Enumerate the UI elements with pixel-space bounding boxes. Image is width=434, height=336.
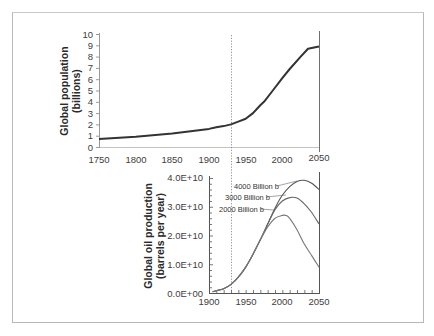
y-tick-label: 5 [88, 85, 93, 96]
y-tick-label: 9 [88, 40, 93, 51]
y-tick-marks [209, 179, 213, 294]
x-tick-label: 2050 [308, 296, 329, 307]
x-tick-marks [210, 290, 320, 293]
x-tick-label: 1900 [198, 296, 219, 307]
x-tick-label: 1850 [161, 154, 182, 165]
label-2000-billion: 2000 Billion b [219, 205, 264, 214]
oil-curve-2000-billion [213, 215, 319, 292]
x-tick-label: 1800 [125, 154, 146, 165]
y-tick-label: 3 [88, 108, 93, 119]
svg-text:(barrels per year): (barrels per year) [154, 193, 166, 279]
x-tick-label: 2050 [308, 152, 329, 163]
y-tick-label: 4 [88, 96, 93, 107]
svg-text:Global oil production: Global oil production [142, 183, 154, 289]
y-tick-label: 0 [88, 142, 93, 153]
svg-text:(billions): (billions) [70, 69, 82, 113]
y-tick-label: 1 [88, 130, 93, 141]
y-tick-label: 2 [88, 119, 93, 130]
y-tick-label: 3.0E+10 [167, 201, 203, 212]
y-axis-title: Global oil production (barrels per year) [142, 183, 166, 289]
y-tick-label: 10 [82, 29, 93, 40]
oil-production-chart: 0.0E+00 1.0E+10 2.0E+10 3.0E+10 4.0E+10 … [142, 172, 330, 307]
y-tick-label: 1.0E+10 [167, 259, 203, 270]
x-tick-label: 2000 [271, 296, 292, 307]
label-4000-billion: 4000 Billion b [234, 182, 279, 191]
y-tick-label: 2.0E+10 [167, 230, 203, 241]
label-3000-billion: 3000 Billion b [225, 193, 270, 202]
population-line [99, 46, 319, 139]
y-tick-label: 6 [88, 74, 93, 85]
x-tick-label: 1900 [198, 154, 219, 165]
y-axis-title: Global population (billions) [58, 46, 82, 135]
svg-text:Global population: Global population [58, 46, 70, 135]
figure: 0 1 2 3 4 5 6 7 8 9 10 1750 1800 1850 19… [0, 0, 434, 336]
y-tick-label: 8 [88, 51, 93, 62]
x-tick-label: 1750 [88, 154, 109, 165]
x-tick-label: 1950 [235, 154, 256, 165]
x-tick-label: 1950 [235, 296, 256, 307]
population-chart: 0 1 2 3 4 5 6 7 8 9 10 1750 1800 1850 19… [58, 29, 330, 166]
x-tick-label: 2000 [271, 154, 292, 165]
y-tick-label: 4.0E+10 [167, 172, 203, 183]
y-tick-label: 7 [88, 62, 93, 73]
